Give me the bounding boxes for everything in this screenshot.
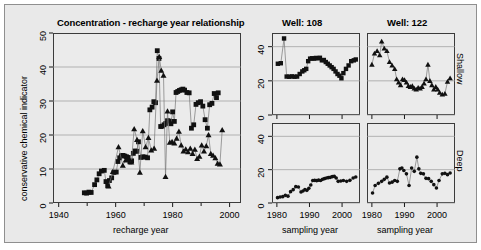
svg-text:1990: 1990 — [394, 210, 414, 220]
svg-text:20: 20 — [256, 79, 266, 89]
figure-panel: Concentration - recharge year relationsh… — [4, 4, 477, 243]
row-title-deep: Deep — [455, 150, 465, 172]
row-title-shallow: Shallow — [455, 53, 465, 85]
svg-text:1990: 1990 — [299, 210, 319, 220]
svg-text:2000: 2000 — [332, 210, 352, 220]
svg-text:1980: 1980 — [362, 210, 382, 220]
svg-text:40: 40 — [256, 45, 266, 55]
xaxis-label-well122: sampling year — [377, 225, 433, 235]
svg-text:1980: 1980 — [267, 210, 287, 220]
svg-text:40: 40 — [256, 134, 266, 144]
svg-text:0: 0 — [256, 115, 266, 120]
small-plots-canvas: 0204002040198019902000198019902000 — [5, 5, 478, 244]
svg-text:20: 20 — [256, 168, 266, 178]
xaxis-label-well108: sampling year — [282, 225, 338, 235]
svg-text:0: 0 — [256, 203, 266, 208]
svg-text:2000: 2000 — [427, 210, 447, 220]
